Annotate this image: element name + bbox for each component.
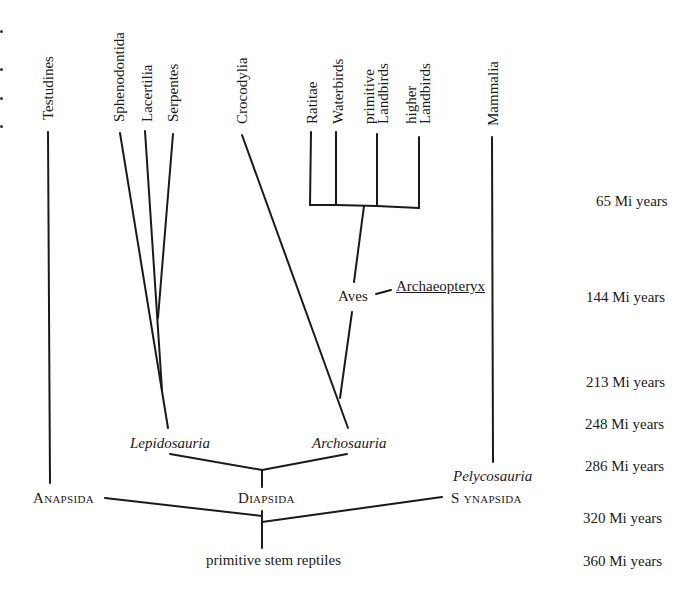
time-label-320: 320 Mi years bbox=[583, 510, 662, 527]
branch-archosauria bbox=[262, 454, 347, 470]
taxon-label-waterbirds: Waterbirds bbox=[331, 59, 346, 124]
taxon-label-ratitae: Ratitae bbox=[305, 82, 320, 124]
branch-ratitae bbox=[310, 132, 311, 205]
clade-label-lepidosauria: Lepidosauria bbox=[130, 434, 210, 452]
taxon-label-serpentes: Serpentes bbox=[166, 64, 181, 122]
clade-label-aves: Aves bbox=[338, 287, 368, 305]
taxon-label-higher-landbirds: higher Landbirds bbox=[404, 63, 432, 124]
taxon-label-sphenodontida: Sphenodontida bbox=[112, 32, 127, 122]
time-label-248: 248 Mi years bbox=[585, 416, 664, 433]
taxon-label-primitive-landbirds: primitive Landbirds bbox=[362, 63, 390, 124]
branch-lepidosauria bbox=[170, 454, 262, 470]
clade-label-synapsida: S ynapsida bbox=[451, 489, 522, 507]
taxon-label-crocodylia: Crocodylia bbox=[235, 57, 250, 124]
time-label-144: 144 Mi years bbox=[586, 289, 665, 306]
branch-testudines bbox=[48, 132, 50, 483]
branch-mammalia bbox=[492, 137, 493, 462]
taxon-label-higher-line2: Landbirds bbox=[417, 63, 433, 124]
clade-label-anapsida: Anapsida bbox=[33, 489, 94, 507]
time-label-65: 65 Mi years bbox=[596, 193, 668, 210]
taxon-label-testudines: Testudines bbox=[41, 56, 56, 120]
branch-aves-lower bbox=[340, 312, 352, 398]
synapsida-initial: S bbox=[451, 490, 460, 506]
branch-lacertilia bbox=[145, 131, 162, 390]
branch-serpentes bbox=[158, 134, 173, 318]
clade-label-archosauria: Archosauria bbox=[312, 434, 386, 452]
fossil-label-archaeopteryx: Archaeopteryx bbox=[396, 277, 485, 295]
time-label-213: 213 Mi years bbox=[586, 374, 665, 391]
clade-label-diapsida: Diapsida bbox=[238, 489, 295, 507]
branch-aves-upper bbox=[354, 206, 364, 282]
branch-archaeopteryx bbox=[376, 290, 391, 294]
taxon-label-primitive-line2: Landbirds bbox=[375, 63, 391, 124]
branch-crocodylia bbox=[242, 135, 348, 428]
time-label-286: 286 Mi years bbox=[585, 458, 664, 475]
taxon-label-lacertilia: Lacertilia bbox=[140, 65, 155, 122]
taxon-label-mammalia: Mammalia bbox=[486, 61, 501, 126]
clade-label-pelycosauria: Pelycosauria bbox=[453, 467, 532, 485]
root-label-primitive-stem-reptiles: primitive stem reptiles bbox=[206, 551, 341, 569]
time-label-360: 360 Mi years bbox=[583, 553, 662, 570]
synapsida-rest: ynapsida bbox=[464, 490, 522, 506]
